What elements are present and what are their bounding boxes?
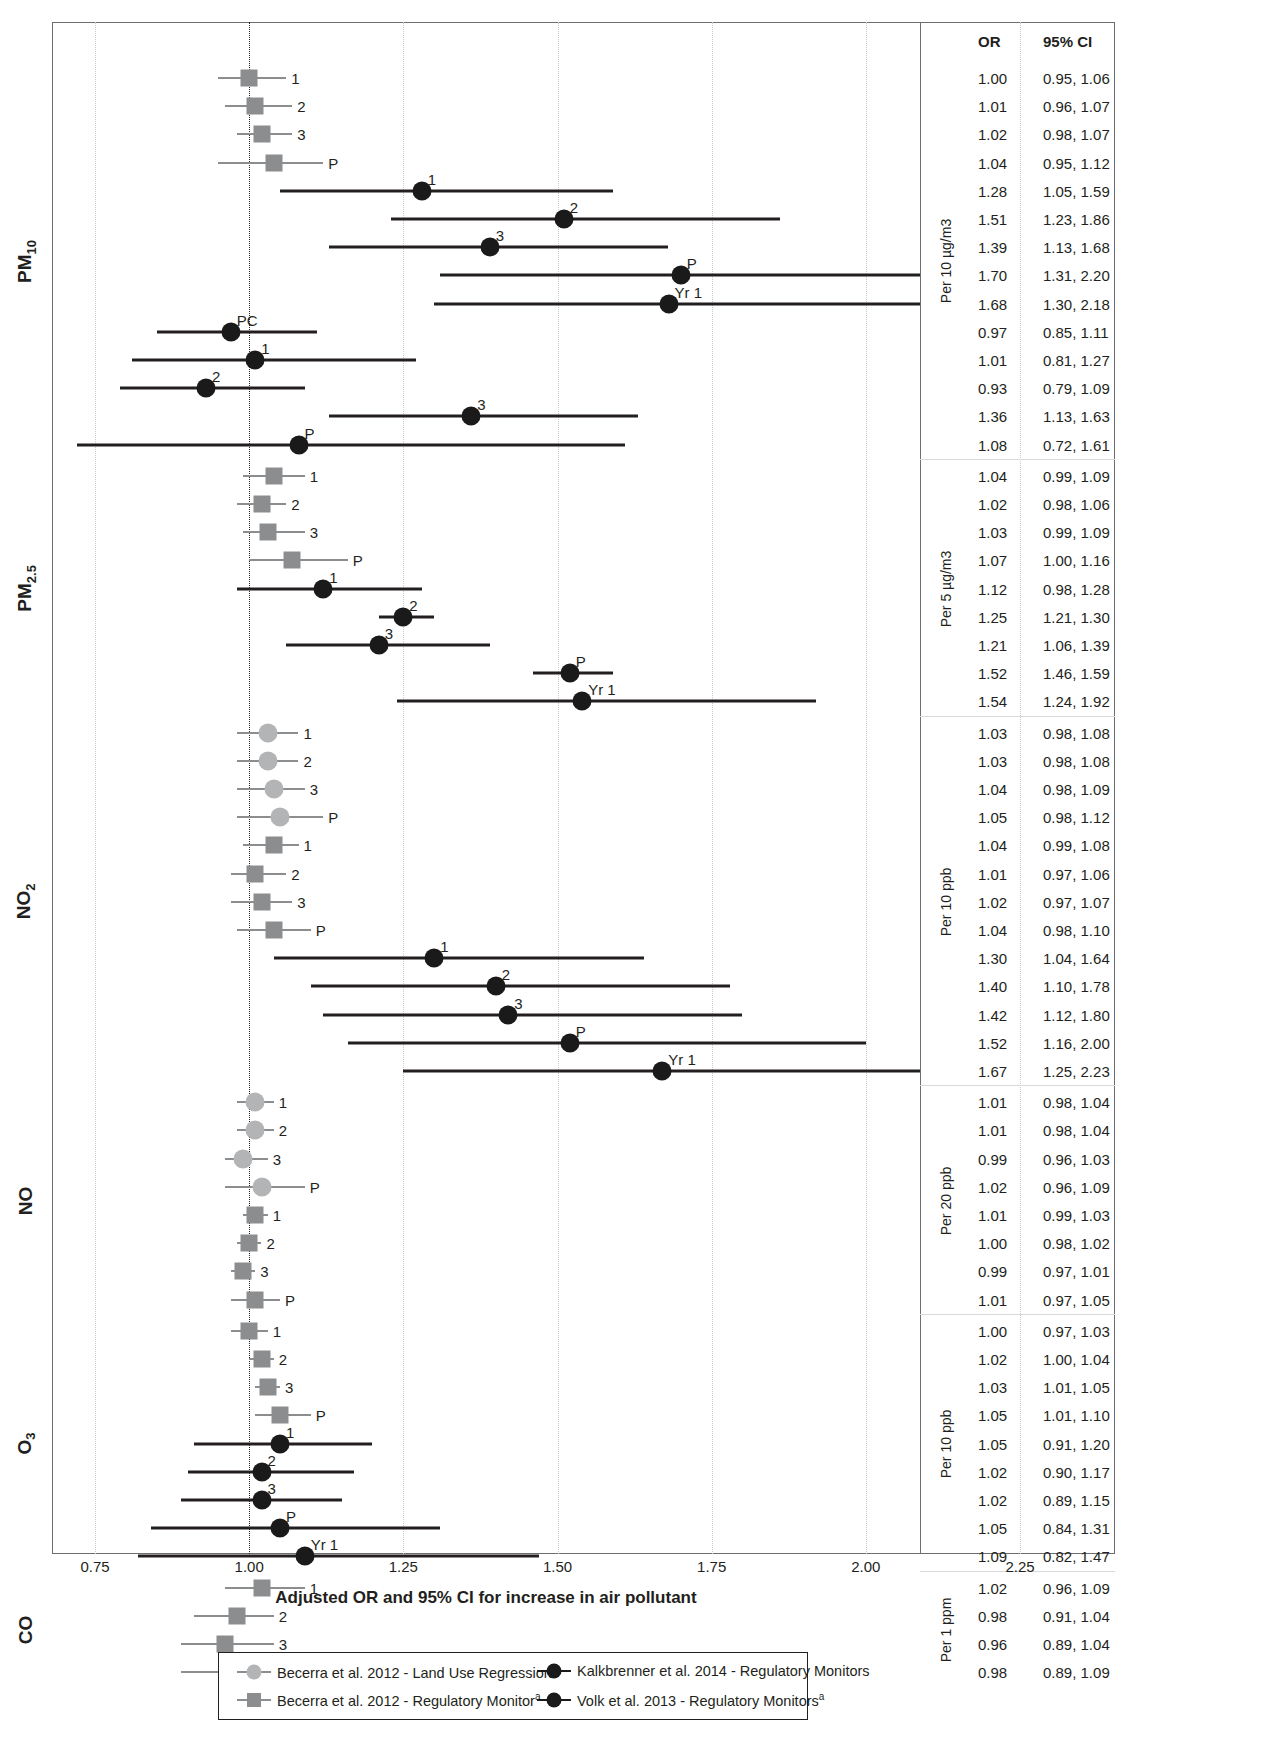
table-cell-ci: 0.95, 1.12 bbox=[1043, 154, 1123, 171]
x-tick-label: 1.25 bbox=[389, 1558, 418, 1575]
unit-group-label: Per 1 ppm bbox=[920, 1574, 972, 1687]
series-label: 2 bbox=[212, 368, 220, 385]
table-cell-ci: 0.95, 1.06 bbox=[1043, 70, 1123, 87]
table-cell-or: 1.01 bbox=[978, 352, 1034, 369]
column-header-or: OR bbox=[978, 33, 1034, 50]
confidence-interval-line bbox=[348, 1041, 866, 1044]
confidence-interval-line bbox=[323, 1013, 742, 1016]
point-estimate-marker bbox=[253, 496, 270, 513]
legend-label: Becerra et al. 2012 - Regulatory Monitor… bbox=[277, 1691, 540, 1709]
series-label: 1 bbox=[273, 1207, 281, 1224]
table-cell-ci: 0.99, 1.09 bbox=[1043, 467, 1123, 484]
series-label: 3 bbox=[310, 524, 318, 541]
table-cell-or: 1.70 bbox=[978, 267, 1034, 284]
table-cell-or: 1.36 bbox=[978, 408, 1034, 425]
point-estimate-marker bbox=[272, 1407, 289, 1424]
gridline-2.00 bbox=[866, 22, 867, 1554]
pollutant-group-label: PM10 bbox=[0, 64, 52, 459]
series-label: P bbox=[328, 809, 338, 826]
series-label: 3 bbox=[496, 227, 504, 244]
point-estimate-marker bbox=[234, 1149, 253, 1168]
table-cell-ci: 0.79, 1.09 bbox=[1043, 380, 1123, 397]
confidence-interval-line bbox=[391, 218, 780, 221]
series-label: 2 bbox=[409, 596, 417, 613]
table-cell-or: 0.93 bbox=[978, 380, 1034, 397]
pollutant-label-text: PM2.5 bbox=[14, 565, 39, 612]
section-divider bbox=[920, 1314, 1115, 1315]
series-label: 3 bbox=[260, 1263, 268, 1280]
point-estimate-marker bbox=[253, 126, 270, 143]
point-estimate-marker bbox=[253, 893, 270, 910]
series-label: 2 bbox=[291, 496, 299, 513]
table-cell-ci: 1.31, 2.20 bbox=[1043, 267, 1123, 284]
series-label: 3 bbox=[297, 893, 305, 910]
point-estimate-marker bbox=[265, 922, 282, 939]
table-cell-or: 1.52 bbox=[978, 1034, 1034, 1051]
series-label: P bbox=[310, 1178, 320, 1195]
series-label: P bbox=[687, 255, 697, 272]
table-cell-or: 0.96 bbox=[978, 1636, 1034, 1653]
series-label: P bbox=[328, 154, 338, 171]
unit-group-label: Per 10 ppb bbox=[920, 719, 972, 1086]
table-cell-or: 1.02 bbox=[978, 1178, 1034, 1195]
table-cell-ci: 0.97, 1.06 bbox=[1043, 865, 1123, 882]
table-cell-or: 1.07 bbox=[978, 552, 1034, 569]
series-label: P bbox=[316, 1407, 326, 1424]
table-cell-ci: 1.13, 1.68 bbox=[1043, 239, 1123, 256]
series-label: 1 bbox=[279, 1094, 287, 1111]
series-label: 2 bbox=[279, 1122, 287, 1139]
table-cell-ci: 0.91, 1.20 bbox=[1043, 1435, 1123, 1452]
table-cell-ci: 1.05, 1.59 bbox=[1043, 182, 1123, 199]
forest-plot-figure: 123P123PYr 1PC123P123P123PYr 1123P123P12… bbox=[0, 0, 1265, 1738]
series-label: Yr 1 bbox=[675, 283, 703, 300]
legend-symbol bbox=[247, 1664, 262, 1679]
table-cell-or: 1.02 bbox=[978, 893, 1034, 910]
point-estimate-marker bbox=[259, 524, 276, 541]
series-label: 3 bbox=[268, 1480, 276, 1497]
table-cell-or: 1.08 bbox=[978, 436, 1034, 453]
table-cell-or: 1.51 bbox=[978, 211, 1034, 228]
unit-label-text: Per 10 ppb bbox=[938, 1409, 954, 1478]
table-cell-or: 1.03 bbox=[978, 1379, 1034, 1396]
table-cell-ci: 1.00, 1.04 bbox=[1043, 1351, 1123, 1368]
table-cell-ci: 0.81, 1.27 bbox=[1043, 352, 1123, 369]
pollutant-label-text: O3 bbox=[14, 1433, 39, 1455]
table-cell-ci: 1.23, 1.86 bbox=[1043, 211, 1123, 228]
table-cell-ci: 0.98, 1.28 bbox=[1043, 580, 1123, 597]
x-tick-label: 0.75 bbox=[80, 1558, 109, 1575]
table-cell-ci: 0.90, 1.17 bbox=[1043, 1463, 1123, 1480]
table-cell-or: 1.40 bbox=[978, 978, 1034, 995]
series-label: 2 bbox=[502, 966, 510, 983]
point-estimate-marker bbox=[246, 1121, 265, 1140]
series-label: P bbox=[576, 1022, 586, 1039]
table-cell-or: 1.04 bbox=[978, 154, 1034, 171]
pollutant-label-text: NO2 bbox=[14, 884, 39, 920]
gridline-1.75 bbox=[712, 22, 713, 1554]
table-cell-ci: 1.25, 2.23 bbox=[1043, 1063, 1123, 1080]
series-label: 1 bbox=[286, 1423, 294, 1440]
gridline-1.25 bbox=[403, 22, 404, 1554]
table-cell-ci: 0.96, 1.09 bbox=[1043, 1579, 1123, 1596]
series-label: P bbox=[316, 922, 326, 939]
table-cell-ci: 0.97, 1.03 bbox=[1043, 1322, 1123, 1339]
series-label: PC bbox=[237, 311, 258, 328]
table-cell-ci: 1.01, 1.10 bbox=[1043, 1407, 1123, 1424]
table-cell-or: 1.68 bbox=[978, 295, 1034, 312]
table-cell-ci: 0.97, 1.07 bbox=[1043, 893, 1123, 910]
pollutant-label-text: CO bbox=[15, 1616, 37, 1645]
table-cell-ci: 0.97, 1.05 bbox=[1043, 1291, 1123, 1308]
table-cell-ci: 0.91, 1.04 bbox=[1043, 1607, 1123, 1624]
unit-label-text: Per 10 µg/m3 bbox=[938, 219, 954, 303]
point-estimate-marker bbox=[216, 1636, 233, 1653]
point-estimate-marker bbox=[228, 1607, 245, 1624]
series-label: 2 bbox=[304, 752, 312, 769]
table-cell-or: 1.01 bbox=[978, 98, 1034, 115]
point-estimate-marker bbox=[265, 837, 282, 854]
table-cell-or: 1.02 bbox=[978, 496, 1034, 513]
table-cell-ci: 0.98, 1.08 bbox=[1043, 724, 1123, 741]
unit-label-text: Per 5 µg/m3 bbox=[938, 550, 954, 627]
table-cell-or: 1.01 bbox=[978, 1291, 1034, 1308]
column-header-ci: 95% CI bbox=[1043, 33, 1117, 50]
confidence-interval-line bbox=[280, 189, 613, 192]
table-cell-ci: 0.96, 1.07 bbox=[1043, 98, 1123, 115]
